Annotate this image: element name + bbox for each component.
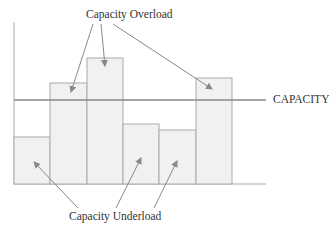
bar-5 <box>159 130 196 184</box>
bar-6 <box>196 78 232 184</box>
bars <box>14 58 232 184</box>
capacity-label: CAPACITY <box>273 93 329 105</box>
bar-4 <box>123 124 159 184</box>
bar-1 <box>14 137 50 184</box>
capacity-diagram <box>0 0 336 235</box>
bar-2 <box>50 83 87 184</box>
underload-label: Capacity Underload <box>69 210 161 222</box>
bar-3 <box>87 58 123 184</box>
overload-label: Capacity Overload <box>86 8 173 20</box>
